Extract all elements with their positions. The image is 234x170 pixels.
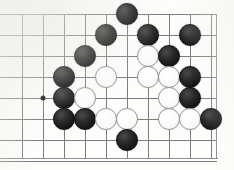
- stone-layer: [0, 0, 234, 170]
- white-stone[interactable]: [137, 66, 159, 88]
- go-board-diagram: [0, 0, 234, 170]
- black-stone[interactable]: [116, 129, 138, 151]
- white-stone[interactable]: [179, 108, 201, 130]
- black-stone[interactable]: [53, 87, 75, 109]
- black-stone[interactable]: [137, 24, 159, 46]
- white-stone[interactable]: [137, 45, 159, 67]
- black-stone[interactable]: [53, 66, 75, 88]
- white-stone[interactable]: [158, 66, 180, 88]
- black-stone[interactable]: [116, 3, 138, 25]
- black-stone[interactable]: [179, 87, 201, 109]
- white-stone[interactable]: [95, 66, 117, 88]
- black-stone[interactable]: [74, 108, 96, 130]
- white-stone[interactable]: [95, 108, 117, 130]
- black-stone[interactable]: [158, 45, 180, 67]
- black-stone[interactable]: [53, 108, 75, 130]
- black-stone[interactable]: [95, 24, 117, 46]
- black-stone[interactable]: [179, 24, 201, 46]
- white-stone[interactable]: [158, 108, 180, 130]
- black-stone[interactable]: [179, 66, 201, 88]
- white-stone[interactable]: [116, 108, 138, 130]
- black-stone[interactable]: [200, 108, 222, 130]
- white-stone[interactable]: [158, 87, 180, 109]
- black-stone[interactable]: [74, 45, 96, 67]
- white-stone[interactable]: [74, 87, 96, 109]
